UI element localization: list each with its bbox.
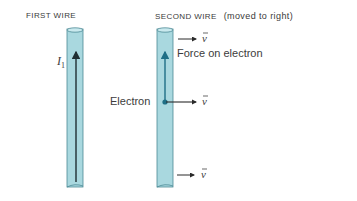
velocity-label-bottom: v xyxy=(201,168,206,180)
velocity-label-electron: v xyxy=(202,95,207,107)
second-wire xyxy=(157,28,173,187)
velocity-label-top: v xyxy=(202,32,207,44)
electron-label: Electron xyxy=(110,95,150,107)
first-wire xyxy=(67,28,83,187)
diagram-canvas xyxy=(0,0,357,201)
force-label: Force on electron xyxy=(177,47,263,59)
current-subscript: 1 xyxy=(61,61,65,70)
current-label: I1 xyxy=(57,54,65,70)
